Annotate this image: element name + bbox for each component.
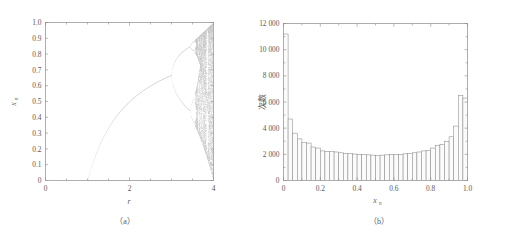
histogram-bar — [330, 152, 335, 181]
panel-a-svg: 00.10.20.30.40.50.60.70.80.91.0 024 r x … — [0, 0, 254, 233]
histogram-bar — [348, 154, 353, 181]
histogram-bar — [334, 152, 339, 181]
histogram-bar — [408, 153, 413, 180]
histogram-bar — [431, 148, 436, 180]
panel-b-x-axis-title-base: x — [372, 196, 377, 205]
panel-a-x-tick-label: 0 — [44, 184, 48, 193]
panel-b-x-tick-labels: 00.20.40.60.81.0 — [282, 184, 473, 193]
panel-b-y-tick-label: 10 000 — [259, 45, 280, 54]
panel-b-svg: 02 0004 0006 0008 00010 00012 000 00.20.… — [254, 0, 508, 233]
panel-b-x-axis-title: x n — [372, 196, 382, 206]
panel-a-y-axis-title: x n — [9, 97, 19, 107]
panel-a-x-tick-label: 4 — [212, 184, 216, 193]
panel-b-x-tick-label: 1.0 — [463, 184, 473, 193]
panel-a-y-tick-label: 0.7 — [32, 66, 42, 75]
panel-b-y-tick-label: 4 000 — [263, 124, 280, 133]
histogram-bar — [389, 155, 394, 181]
panel-a-caption: （a） — [115, 217, 135, 226]
panel-a-bifurcation-diagram: 00.10.20.30.40.50.60.70.80.91.0 024 r x … — [0, 0, 254, 233]
histogram-bar — [288, 119, 293, 180]
panel-b-y-tick-label: 8 000 — [263, 71, 280, 80]
histogram-bar — [307, 143, 312, 180]
histogram-bar — [445, 141, 450, 180]
panel-b-x-tick-label: 0 — [282, 184, 286, 193]
panel-a-x-axis-title: r — [127, 197, 131, 206]
panel-b-y-tick-label: 12 000 — [259, 19, 280, 28]
histogram-bar — [302, 143, 307, 181]
panel-b-x-tick-label: 0.6 — [389, 184, 399, 193]
figure-container: 00.10.20.30.40.50.60.70.80.91.0 024 r x … — [0, 0, 508, 233]
histogram-bar — [376, 155, 381, 180]
histogram-bar — [399, 154, 404, 180]
panel-a-y-tick-label: 0.4 — [32, 113, 42, 122]
histogram-bar — [353, 154, 358, 180]
histogram-bar — [380, 155, 385, 180]
panel-a-y-axis-title-subscript: n — [13, 97, 19, 100]
histogram-bar — [311, 147, 316, 180]
panel-a-y-tick-label: 0.8 — [32, 50, 42, 59]
histogram-bar — [284, 34, 289, 181]
panel-a-y-tick-label: 0.2 — [32, 145, 42, 154]
panel-a-y-tick-label: 1.0 — [32, 18, 42, 27]
histogram-bar — [339, 153, 344, 181]
histogram-bar — [325, 151, 330, 180]
histogram-bar — [426, 150, 431, 180]
panel-a-y-tick-label: 0.9 — [32, 34, 42, 43]
panel-a-y-tick-label: 0.1 — [32, 160, 42, 169]
histogram-bar — [417, 152, 422, 181]
histogram-bar — [449, 137, 454, 181]
panel-a-tick-marks — [46, 23, 214, 181]
panel-b-bars — [284, 34, 468, 181]
panel-a-bifurcation-points — [46, 23, 214, 181]
panel-b-x-tick-label: 0.8 — [426, 184, 436, 193]
panel-b-histogram: 02 0004 0006 0008 00010 00012 000 00.20.… — [254, 0, 508, 233]
histogram-bar — [435, 146, 440, 181]
panel-a-y-tick-label: 0.3 — [32, 129, 42, 138]
histogram-bar — [297, 139, 302, 181]
panel-b-x-tick-label: 0.2 — [316, 184, 326, 193]
histogram-bar — [463, 98, 468, 180]
histogram-bar — [316, 148, 321, 180]
histogram-bar — [371, 155, 376, 180]
histogram-bar — [385, 155, 390, 181]
histogram-bar — [293, 133, 298, 180]
histogram-bar — [412, 153, 417, 181]
histogram-bar — [357, 154, 362, 180]
histogram-bar — [440, 144, 445, 180]
histogram-bar — [422, 151, 427, 181]
histogram-bar — [343, 153, 348, 180]
panel-a-plot-frame — [46, 23, 214, 181]
panel-b-caption: （b） — [369, 217, 389, 226]
histogram-bar — [458, 95, 463, 180]
panel-b-x-tick-label: 0.4 — [352, 184, 362, 193]
panel-a-y-tick-label: 0 — [38, 176, 42, 185]
panel-a-y-tick-labels: 00.10.20.30.40.50.60.70.80.91.0 — [32, 18, 42, 185]
panel-a-y-tick-label: 0.6 — [32, 81, 42, 90]
panel-a-y-tick-label: 0.5 — [32, 97, 42, 106]
panel-a-x-tick-labels: 024 — [44, 184, 216, 193]
panel-a-x-tick-label: 2 — [128, 184, 132, 193]
panel-b-x-axis-title-subscript: n — [379, 200, 382, 206]
panel-a-y-axis-title-base: x — [9, 102, 18, 107]
panel-b-y-axis-title: 次数 — [257, 94, 267, 110]
panel-b-y-tick-label: 0 — [276, 176, 280, 185]
histogram-bar — [366, 155, 371, 181]
histogram-bar — [403, 154, 408, 181]
histogram-bar — [454, 126, 459, 180]
histogram-bar — [362, 155, 367, 181]
histogram-bar — [394, 154, 399, 180]
panel-b-y-tick-label: 2 000 — [263, 150, 280, 159]
histogram-bar — [320, 151, 325, 181]
